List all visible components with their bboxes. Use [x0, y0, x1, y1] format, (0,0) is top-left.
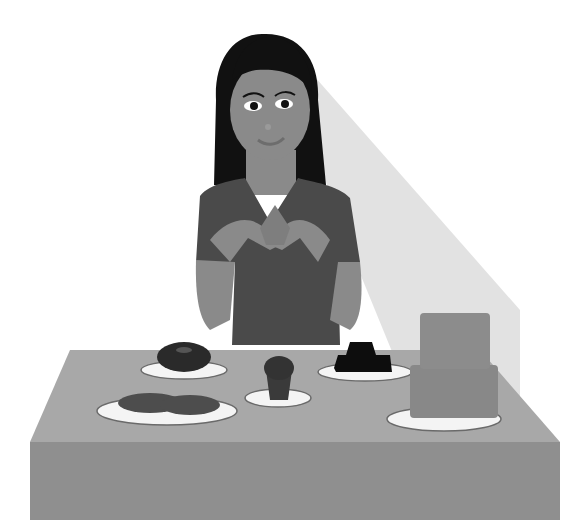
donut-hole — [176, 347, 192, 353]
cookies-2 — [160, 395, 220, 415]
dessert-table-illustration — [0, 0, 581, 525]
cake-top-tier — [420, 313, 490, 369]
nose — [265, 124, 271, 130]
donut — [157, 342, 211, 372]
right-pupil — [281, 100, 289, 108]
left-pupil — [250, 102, 258, 110]
cupcake-top — [264, 356, 294, 380]
table-front — [30, 442, 560, 520]
brownies — [334, 342, 392, 372]
left-arm — [196, 260, 235, 330]
cake-bottom-tier — [410, 365, 498, 418]
